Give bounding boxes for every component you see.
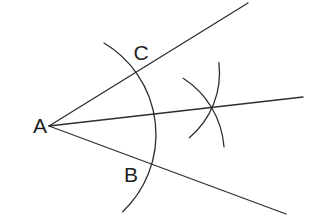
ray-bisector (49, 97, 303, 126)
compass-arc-main (104, 43, 156, 212)
ray-lower (49, 126, 286, 214)
point-label-b: B (124, 163, 138, 186)
construction-figure: ACB (0, 0, 316, 221)
point-label-a: A (33, 114, 47, 137)
geometry-canvas: ACB (0, 0, 316, 221)
point-label-c: C (133, 41, 148, 64)
compass-arc-from-c (189, 63, 219, 138)
point-labels-group: ACB (33, 41, 149, 186)
ray-upper (49, 3, 248, 126)
compass-arcs-group (104, 43, 224, 212)
rays-group (49, 3, 303, 214)
